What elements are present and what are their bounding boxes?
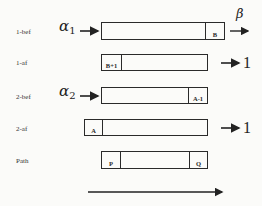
alpha-subscript: 2: [69, 90, 75, 101]
row-label: 2-bef: [16, 93, 31, 101]
row-label: 2-af: [16, 125, 27, 133]
row-2-bef-box: A-1: [101, 87, 208, 104]
alpha-subscript: 1: [69, 25, 75, 36]
alpha-glyph: α: [59, 17, 69, 35]
row-1-bef-box: B: [101, 22, 225, 40]
cell-b-plus-1: B+1: [102, 55, 122, 70]
output-value: 1: [243, 54, 251, 72]
row-label: 1-bef: [16, 28, 31, 36]
alpha1-symbol: α1: [59, 17, 76, 36]
cell-a: A: [85, 120, 103, 135]
cell-b: B: [205, 23, 224, 39]
row-2-af-box: A: [84, 119, 208, 136]
alpha-glyph: α: [59, 82, 69, 100]
beta-symbol: β: [236, 6, 244, 21]
row-label: 1-af: [16, 59, 27, 67]
alpha2-symbol: α2: [59, 82, 76, 101]
row-label: Path: [16, 157, 28, 165]
cell-a-minus-1: A-1: [188, 88, 207, 103]
path-box: P Q: [101, 151, 208, 169]
row-1-af-box: B+1: [101, 54, 208, 71]
output-value: 1: [243, 119, 251, 137]
cell-p: P: [102, 152, 121, 168]
cell-q: Q: [189, 152, 207, 168]
